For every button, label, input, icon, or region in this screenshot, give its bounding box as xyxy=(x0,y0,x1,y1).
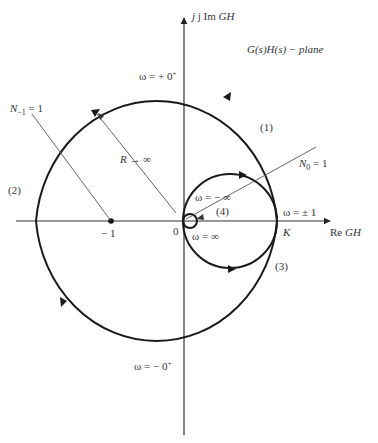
segment-1-label: (1) xyxy=(260,122,273,133)
diagram-canvas xyxy=(0,0,378,443)
omega-pm1-label: ω = ± 1 xyxy=(283,207,316,218)
nyquist-diagram: j j Im GH G(s)H(s) − plane ω = + 0+ N−1 … xyxy=(0,0,378,443)
segment-4-label: (4) xyxy=(216,206,229,217)
omega-inf-label: ω = ∞ xyxy=(192,231,219,242)
plane-label: G(s)H(s) − plane xyxy=(247,44,323,55)
origin-label: 0 xyxy=(173,226,179,237)
omega-minus-0-label: ω = − 0+ xyxy=(134,361,171,372)
n-minus-1-label: N−1 = 1 xyxy=(10,103,43,117)
real-axis-label: Re GH xyxy=(330,227,361,238)
imag-axis-label: j j Im GH xyxy=(192,11,234,22)
minus-one-label: − 1 xyxy=(101,228,115,239)
k-label: K xyxy=(283,227,290,238)
segment-2-label: (2) xyxy=(8,185,21,196)
omega-plus-0-label: ω = + 0+ xyxy=(139,71,176,82)
n-0-label: N0 = 1 xyxy=(299,158,328,172)
omega-minus-inf-label: ω = − ∞ xyxy=(195,192,231,203)
r-to-infinity-label: R → ∞ xyxy=(120,154,151,165)
segment-3-label: (3) xyxy=(275,261,288,272)
